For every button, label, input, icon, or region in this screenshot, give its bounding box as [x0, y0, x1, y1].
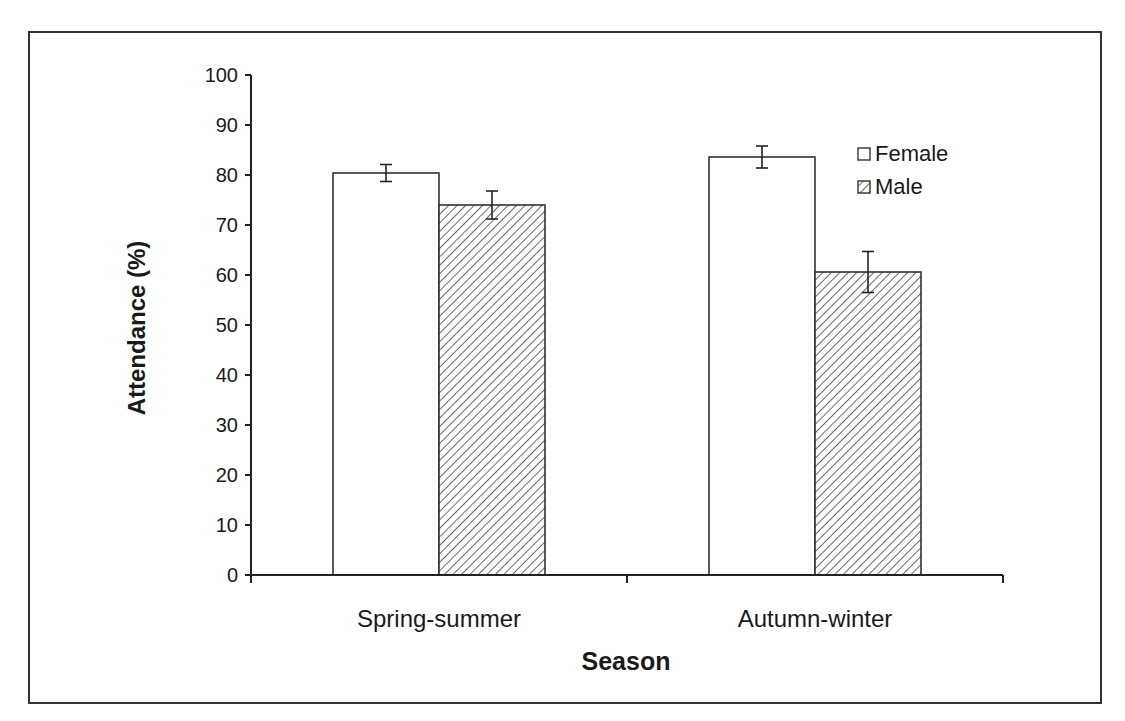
legend-swatch-male [858, 181, 870, 193]
y-tick-label: 100 [205, 64, 238, 86]
bars [333, 146, 921, 575]
y-tick-label: 70 [216, 214, 238, 236]
x-tick-label: Spring-summer [357, 605, 521, 632]
legend-label-female: Female [875, 141, 948, 166]
y-tick-label: 0 [227, 564, 238, 586]
bar-chart: 0102030405060708090100 Spring-summerAutu… [0, 0, 1125, 721]
x-axis-title: Season [582, 647, 671, 675]
legend-label-male: Male [875, 174, 923, 199]
bar-male [815, 272, 921, 575]
y-tick-label: 50 [216, 314, 238, 336]
y-tick-label: 30 [216, 414, 238, 436]
legend: FemaleMale [858, 141, 948, 199]
x-tick-label: Autumn-winter [738, 605, 893, 632]
legend-swatch-female [858, 148, 870, 160]
bar-male [439, 205, 545, 575]
bar-female [333, 173, 439, 575]
y-tick-label: 20 [216, 464, 238, 486]
y-tick-label: 60 [216, 264, 238, 286]
y-axis-title: Attendance (%) [123, 241, 150, 416]
y-tick-label: 80 [216, 164, 238, 186]
x-axis: Spring-summerAutumn-winter [251, 575, 1003, 632]
y-tick-label: 90 [216, 114, 238, 136]
y-tick-label: 40 [216, 364, 238, 386]
y-tick-label: 10 [216, 514, 238, 536]
bar-female [709, 157, 815, 575]
y-axis: 0102030405060708090100 [205, 64, 251, 586]
